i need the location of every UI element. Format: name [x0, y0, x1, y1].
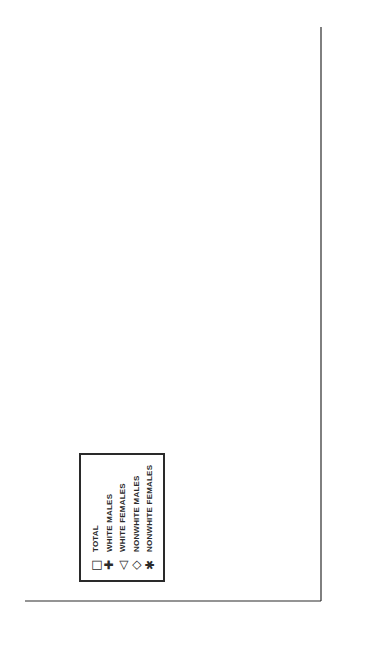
- legend-content: □ TOTAL ✚ WHITE MALES ◁ WHITE FEMALES ◇ …: [81, 455, 167, 584]
- triangle-icon: ◁: [117, 558, 129, 572]
- legend-item-white-males: ✚ WHITE MALES: [103, 455, 117, 572]
- plus-icon: ✚: [103, 558, 115, 572]
- axes: [25, 27, 321, 601]
- legend: □ TOTAL ✚ WHITE MALES ◁ WHITE FEMALES ◇ …: [79, 453, 165, 582]
- square-icon: □: [90, 558, 102, 572]
- legend-item-total: □ TOTAL: [89, 455, 103, 572]
- legend-item-nonwhite-females: ✱ NONWHITE FEMALES: [143, 455, 157, 572]
- legend-item-white-females: ◁ WHITE FEMALES: [116, 455, 130, 572]
- legend-item-nonwhite-males: ◇ NONWHITE MALES: [130, 455, 144, 572]
- asterisk-icon: ✱: [144, 558, 156, 572]
- diamond-icon: ◇: [130, 558, 142, 572]
- mortality-chart: [0, 0, 371, 664]
